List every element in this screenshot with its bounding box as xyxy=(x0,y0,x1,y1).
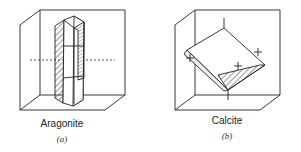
crystal-diagram xyxy=(0,0,301,152)
calcite-sublabel: (b) xyxy=(207,131,247,141)
calcite-label: Calcite xyxy=(187,115,267,126)
calcite-figure xyxy=(175,10,280,110)
aragonite-sublabel: (a) xyxy=(42,134,82,144)
aragonite-figure xyxy=(20,10,125,110)
aragonite-label: Aragonite xyxy=(22,118,102,129)
